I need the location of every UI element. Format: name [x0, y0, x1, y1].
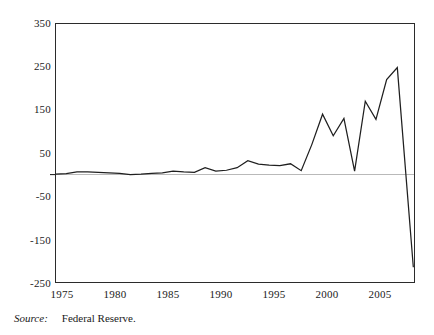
- x-axis-labels: 1975 1980 1985 1990 1995 2000 2005: [0, 288, 434, 304]
- x-tick-label: 2000: [302, 288, 352, 300]
- plot-area: [55, 23, 415, 283]
- source-value: Federal Reserve.: [62, 312, 136, 324]
- x-tick-label: 2005: [355, 288, 405, 300]
- x-tick-label: 1985: [143, 288, 193, 300]
- chart-figure: 350 250 150 50 -50 -150 -250 1975 1980 1…: [0, 0, 434, 335]
- y-tick-label: 350: [5, 18, 51, 29]
- y-tick-label: 150: [5, 104, 51, 115]
- x-tick-label: 1975: [37, 288, 87, 300]
- source-label: Source:: [14, 312, 48, 324]
- x-tick-label: 1980: [90, 288, 140, 300]
- x-tick-label: 1990: [196, 288, 246, 300]
- source-note: Source:Federal Reserve.: [14, 312, 136, 325]
- x-tick-label: 1995: [249, 288, 299, 300]
- y-tick-label: 50: [5, 148, 51, 159]
- y-tick-label: 250: [5, 61, 51, 72]
- y-tick-label: -50: [5, 191, 51, 202]
- y-axis-labels: 350 250 150 50 -50 -150 -250: [0, 0, 51, 335]
- y-tick-label: -150: [5, 235, 51, 246]
